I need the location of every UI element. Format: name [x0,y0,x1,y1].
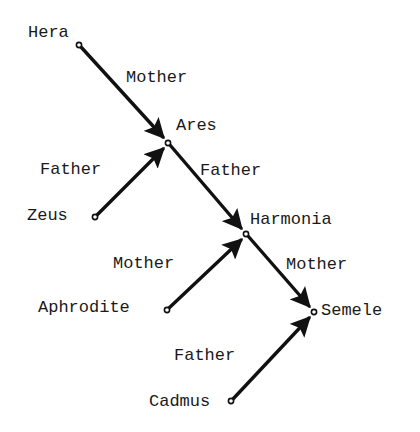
edge-label-cadmus-semele: Father [174,347,235,364]
node-label-aphrodite: Aphrodite [38,299,130,316]
node-label-hera: Hera [28,24,69,41]
edge-label-zeus-ares: Father [40,161,101,178]
node-dot-aphrodite [164,307,169,312]
node-label-zeus: Zeus [27,207,68,224]
edge-cadmus-semele [233,318,309,399]
node-dot-hera [76,42,81,47]
edge-hera-ares [81,47,163,137]
node-dot-semele [311,309,316,314]
node-dot-harmonia [243,231,248,236]
node-dot-zeus [92,214,97,219]
node-label-ares: Ares [176,117,217,134]
genealogy-diagram: Hera Ares Zeus Harmonia Aphrodite Semele… [0,0,420,432]
node-label-harmonia: Harmonia [250,211,332,228]
edge-label-aphrodite-harmonia: Mother [113,255,174,272]
edge-label-harmonia-semele: Mother [286,256,347,273]
node-dot-ares [165,140,170,145]
edge-ares-harmonia [170,145,241,228]
node-label-cadmus: Cadmus [149,393,210,410]
edge-aphrodite-harmonia [169,240,241,308]
edge-label-hera-ares: Mother [126,69,187,86]
edge-label-ares-harmonia: Father [200,162,261,179]
node-dot-cadmus [228,398,233,403]
edge-zeus-ares [97,149,163,215]
node-label-semele: Semele [321,302,382,319]
